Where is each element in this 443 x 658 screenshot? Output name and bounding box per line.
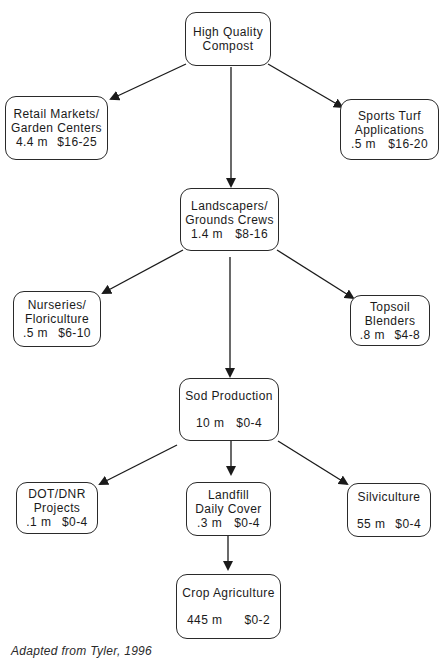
node-price: $0-2 xyxy=(244,613,270,627)
node-title: Silviculture xyxy=(348,490,430,504)
arrow-compost-to-sports-turf xyxy=(268,64,342,107)
node-title: High Quality Compost xyxy=(186,25,270,53)
node-title: Landscapers/ Grounds Crews xyxy=(181,199,278,227)
node-sports-turf: Sports Turf Applications .5 m $16-20 xyxy=(340,99,439,160)
node-volume: .3 m xyxy=(197,516,222,530)
node-stats: .8 m $4-8 xyxy=(351,328,429,342)
node-stats: 1.4 m $8-16 xyxy=(181,227,278,241)
arrow-sod-to-silviculture xyxy=(278,441,347,484)
node-price: $16-25 xyxy=(57,135,97,149)
node-price: $0-4 xyxy=(236,416,262,430)
node-title: Nurseries/ Floriculture xyxy=(14,298,100,326)
node-stats: 445 m $0-2 xyxy=(177,613,280,627)
node-price: $6-10 xyxy=(58,326,91,340)
node-price: $0-4 xyxy=(234,516,260,530)
arrow-landscapers-to-nurseries xyxy=(103,250,183,293)
arrow-sod-to-dot-dnr xyxy=(100,445,177,484)
node-volume: 10 m xyxy=(196,416,224,430)
node-price: $0-4 xyxy=(395,517,421,531)
node-landscapers: Landscapers/ Grounds Crews 1.4 m $8-16 xyxy=(180,188,279,251)
node-crop-agriculture: Crop Agriculture 445 m $0-2 xyxy=(176,574,281,639)
node-stats: .3 m $0-4 xyxy=(187,516,270,530)
node-volume: .1 m xyxy=(26,515,51,529)
node-title: DOT/DNR Projects xyxy=(17,487,97,515)
node-volume: 445 m xyxy=(187,613,222,627)
node-volume: 4.4 m xyxy=(16,135,48,149)
node-silviculture: Silviculture 55 m $0-4 xyxy=(347,483,431,537)
node-volume: .5 m xyxy=(351,137,376,151)
node-volume: .5 m xyxy=(23,326,48,340)
node-sod-production: Sod Production 10 m $0-4 xyxy=(179,378,279,441)
node-dot-dnr-projects: DOT/DNR Projects .1 m $0-4 xyxy=(16,482,98,534)
node-price: $8-16 xyxy=(235,227,268,241)
node-title: Crop Agriculture xyxy=(177,586,280,600)
node-title: Retail Markets/ Garden Centers xyxy=(6,107,107,135)
node-stats: .5 m $16-20 xyxy=(341,137,438,151)
node-stats: 55 m $0-4 xyxy=(348,517,430,531)
node-volume: 1.4 m xyxy=(191,227,223,241)
source-caption: Adapted from Tyler, 1996 xyxy=(11,644,152,658)
node-volume: 55 m xyxy=(357,517,385,531)
node-volume: .8 m xyxy=(360,328,385,342)
node-title: Topsoil Blenders xyxy=(351,300,429,328)
node-price: $0-4 xyxy=(62,515,88,529)
node-title: Landfill Daily Cover xyxy=(187,488,270,516)
node-nurseries: Nurseries/ Floriculture .5 m $6-10 xyxy=(13,291,101,347)
node-price: $16-20 xyxy=(388,137,428,151)
node-stats: 10 m $0-4 xyxy=(180,416,278,430)
node-stats: 4.4 m $16-25 xyxy=(6,135,107,149)
node-stats: .5 m $6-10 xyxy=(14,326,100,340)
node-high-quality-compost: High Quality Compost xyxy=(185,12,271,66)
node-stats: .1 m $0-4 xyxy=(17,515,97,529)
arrow-compost-to-retail xyxy=(111,64,186,99)
node-title: Sports Turf Applications xyxy=(341,109,438,137)
node-title: Sod Production xyxy=(180,389,278,403)
node-landfill-daily-cover: Landfill Daily Cover .3 m $0-4 xyxy=(186,482,271,536)
node-price: $4-8 xyxy=(395,328,421,342)
node-retail-markets: Retail Markets/ Garden Centers 4.4 m $16… xyxy=(5,96,108,160)
arrow-landscapers-to-topsoil xyxy=(277,250,353,298)
node-topsoil-blenders: Topsoil Blenders .8 m $4-8 xyxy=(350,295,430,346)
